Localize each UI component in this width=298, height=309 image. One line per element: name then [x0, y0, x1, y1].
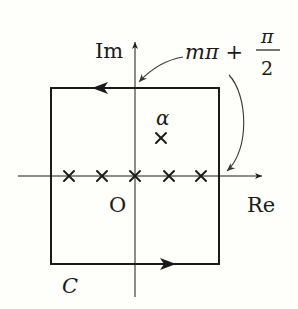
- annotation-numerator: π: [260, 25, 274, 47]
- alpha-label: α: [156, 106, 170, 130]
- real-axis-label: Re: [247, 193, 275, 217]
- annotation-denominator: 2: [261, 57, 273, 79]
- complex-plane-diagram: Im Re O C α mπ + π 2: [0, 0, 298, 309]
- alpha-cross-marker-icon: [156, 133, 166, 143]
- annotation-main: mπ +: [185, 40, 243, 64]
- pointer-arrow-top-icon: [139, 57, 183, 82]
- imaginary-axis-label: Im: [95, 39, 123, 63]
- contour-label: C: [62, 274, 78, 298]
- origin-label: O: [109, 193, 126, 217]
- pointer-arrow-right-icon: [227, 75, 244, 171]
